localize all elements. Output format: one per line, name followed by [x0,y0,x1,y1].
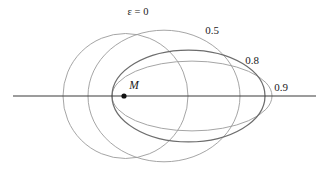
label-eccentricity-0-5: 0.5 [205,24,219,36]
focus-point-dot [121,93,126,98]
focus-point-label: M [128,79,140,91]
label-eccentricity-0-8: 0.8 [245,54,259,66]
label-eccentricity-0-9: 0.9 [274,81,288,93]
orbital-eccentricity-figure: M ε = 0 0.5 0.8 0.9 [0,0,327,186]
label-eccentricity-0: ε = 0 [128,6,149,17]
